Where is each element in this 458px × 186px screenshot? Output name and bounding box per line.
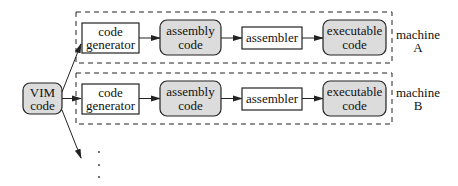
continuation-ellipsis xyxy=(98,151,100,178)
vim-code-node: VIM code xyxy=(23,83,62,114)
executable-code-line2: code xyxy=(342,37,367,52)
assembler-node: assembler xyxy=(242,88,302,110)
assembly-code-node: assembly code xyxy=(160,81,221,116)
executable-code-node: executable code xyxy=(323,81,386,116)
code-generator-line2: generator xyxy=(86,37,136,52)
pipeline-machine-b: code generator assembly code assembler e… xyxy=(76,73,440,124)
executable-code-node: executable code xyxy=(323,20,386,55)
assembler-label: assembler xyxy=(246,91,299,106)
assembly-code-line1: assembly xyxy=(166,84,215,99)
code-generator-node: code generator xyxy=(82,23,139,53)
assembly-code-line1: assembly xyxy=(166,23,215,38)
vim-code-line2: code xyxy=(30,98,55,113)
assembler-label: assembler xyxy=(246,30,299,45)
assembly-code-line2: code xyxy=(178,37,203,52)
executable-code-line1: executable xyxy=(327,23,383,38)
executable-code-line1: executable xyxy=(327,84,383,99)
assembly-code-line2: code xyxy=(178,98,203,113)
code-generator-line2: generator xyxy=(86,98,136,113)
machine-b-label-line2: B xyxy=(414,98,423,113)
code-generator-node: code generator xyxy=(82,84,139,114)
arrow-to-machine-a xyxy=(62,44,81,92)
pipeline-machine-a: code generator assembly code assembler e… xyxy=(76,12,440,63)
assembly-code-node: assembly code xyxy=(160,20,221,55)
assembler-node: assembler xyxy=(242,27,302,49)
arrow-to-more-machines xyxy=(62,110,81,158)
diagram-canvas: VIM code code generator assembly code as… xyxy=(0,0,458,186)
machine-a-label-line2: A xyxy=(413,40,423,55)
executable-code-line2: code xyxy=(342,98,367,113)
